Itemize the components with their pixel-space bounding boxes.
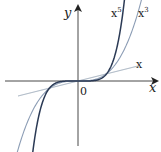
y-axis-label: y — [63, 5, 72, 20]
origin-label: 0 — [80, 85, 87, 98]
label-x3: x3 — [138, 6, 149, 20]
curve-x5 — [23, 0, 130, 152]
label-x: x — [136, 58, 143, 71]
x-axis-label: x — [149, 80, 157, 95]
function-plot: y x 0 x x5 x3 — [0, 0, 161, 152]
label-x5: x5 — [111, 6, 122, 20]
plot-canvas: y x 0 x x5 x3 — [0, 0, 161, 152]
